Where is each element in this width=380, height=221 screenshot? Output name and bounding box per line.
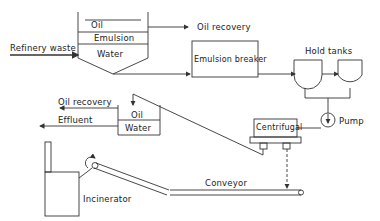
hold-tank-1 (294, 60, 322, 89)
sep-water-label: Water (125, 123, 151, 133)
oil-recovery-bottom-label: Oil recovery (58, 97, 112, 107)
refinery-waste-label: Refinery waste (10, 43, 76, 53)
tank-water-label: Water (97, 49, 123, 59)
incinerator-label: Incinerator (83, 194, 131, 204)
centrifugal-label: Centrifugal (256, 123, 303, 133)
emulsion-breaker-label: Emulsion breaker (194, 55, 267, 65)
effluent-label: Effluent (58, 115, 93, 125)
pump-label: Pump (339, 116, 364, 126)
conveyor (85, 157, 303, 195)
oil-recovery-top-label: Oil recovery (197, 22, 251, 32)
incinerator-stack (45, 142, 51, 172)
flow-diagram (0, 0, 380, 221)
incinerator-box (45, 172, 79, 216)
sep-oil-label: Oil (131, 110, 143, 120)
hold-tank-2 (338, 60, 362, 82)
tank-emulsion-label: Emulsion (94, 33, 134, 43)
settling-tank (78, 12, 148, 74)
hold-tanks-label: Hold tanks (305, 46, 352, 56)
conveyor-label: Conveyor (205, 178, 247, 188)
tank-oil-label: Oil (91, 20, 103, 30)
